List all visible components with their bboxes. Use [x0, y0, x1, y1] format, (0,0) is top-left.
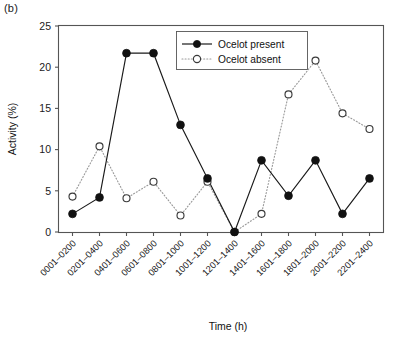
data-point-ocelot-present	[177, 121, 185, 129]
legend-marker-absent	[193, 55, 200, 62]
data-point-ocelot-present	[258, 156, 266, 164]
data-point-ocelot-absent	[285, 91, 292, 98]
data-point-ocelot-absent	[123, 195, 130, 202]
data-point-ocelot-present	[69, 210, 77, 218]
legend-label-absent: Ocelot absent	[218, 54, 281, 65]
data-point-ocelot-present	[366, 175, 374, 183]
figure-panel-b: (b) 0510152025 0001–02000201–04000401–06…	[0, 0, 393, 337]
y-axis-title-label: Activity (%)	[6, 103, 18, 156]
data-point-ocelot-absent	[150, 178, 157, 185]
data-point-ocelot-present	[312, 156, 320, 164]
y-axis-title: Activity (%)	[6, 103, 18, 156]
data-point-ocelot-present	[339, 210, 347, 218]
activity-line-chart: 0510152025 0001–02000201–04000401–060006…	[0, 0, 393, 337]
panel-label: (b)	[4, 2, 18, 14]
data-point-ocelot-present	[150, 49, 158, 57]
data-point-ocelot-present	[96, 193, 104, 201]
data-point-ocelot-present	[285, 192, 293, 200]
data-point-ocelot-absent	[258, 210, 265, 217]
y-tick-label: 5	[45, 185, 51, 197]
y-axis-ticks: 0510152025	[39, 20, 59, 238]
data-point-ocelot-absent	[366, 126, 373, 133]
data-point-ocelot-absent	[96, 143, 103, 150]
y-tick-label: 25	[39, 20, 51, 32]
legend: Ocelot present Ocelot absent	[177, 32, 308, 70]
legend-entry-ocelot-absent: Ocelot absent	[182, 54, 281, 65]
legend-marker-present	[193, 40, 200, 47]
data-point-ocelot-absent	[339, 110, 346, 117]
y-tick-label: 10	[39, 143, 51, 155]
data-point-ocelot-absent	[69, 193, 76, 200]
data-point-ocelot-present	[123, 49, 131, 57]
x-axis-title-label: Time (h)	[209, 320, 248, 332]
legend-label-present: Ocelot present	[218, 39, 284, 50]
y-tick-label: 0	[45, 226, 51, 238]
x-axis-ticks: 0001–02000201–04000401–06000601–08000801…	[38, 232, 375, 278]
data-point-ocelot-absent	[177, 212, 184, 219]
y-tick-label: 20	[39, 61, 51, 73]
data-point-ocelot-present	[231, 228, 239, 236]
data-point-ocelot-absent	[312, 57, 319, 64]
legend-entry-ocelot-present: Ocelot present	[182, 39, 284, 50]
y-tick-label: 15	[39, 102, 51, 114]
x-axis-title: Time (h)	[209, 320, 248, 332]
data-point-ocelot-present	[204, 175, 212, 183]
